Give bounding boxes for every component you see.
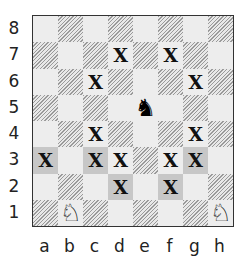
square-f4[interactable] — [158, 121, 183, 147]
square-d4[interactable] — [108, 121, 133, 147]
square-g2[interactable] — [183, 174, 208, 200]
square-f6[interactable] — [158, 69, 183, 95]
square-e8[interactable] — [133, 16, 158, 42]
rank-label-5: 5 — [0, 94, 28, 120]
x-mark-icon: X — [188, 123, 203, 145]
square-h5[interactable] — [208, 95, 233, 121]
square-b6[interactable] — [58, 69, 83, 95]
black-knight-icon[interactable]: ♞ — [135, 96, 157, 120]
square-a2[interactable] — [33, 174, 58, 200]
x-mark-icon: X — [113, 149, 128, 171]
square-c3[interactable]: X — [83, 147, 108, 173]
square-e5[interactable]: ♞ — [133, 95, 158, 121]
x-mark-icon: X — [88, 149, 103, 171]
rank-label-4: 4 — [0, 120, 28, 146]
square-b5[interactable] — [58, 95, 83, 121]
square-d3[interactable]: X — [108, 147, 133, 173]
square-h4[interactable] — [208, 121, 233, 147]
white-knight-icon[interactable]: ♘ — [60, 201, 82, 225]
square-d5[interactable] — [108, 95, 133, 121]
square-e2[interactable] — [133, 174, 158, 200]
square-h8[interactable] — [208, 16, 233, 42]
square-g8[interactable] — [183, 16, 208, 42]
square-h2[interactable] — [208, 174, 233, 200]
square-g1[interactable] — [183, 200, 208, 226]
white-knight-icon[interactable]: ♘ — [210, 201, 232, 225]
square-e6[interactable] — [133, 69, 158, 95]
square-c8[interactable] — [83, 16, 108, 42]
square-b8[interactable] — [58, 16, 83, 42]
rank-label-3: 3 — [0, 146, 28, 172]
square-b4[interactable] — [58, 121, 83, 147]
square-g7[interactable] — [183, 42, 208, 68]
square-c5[interactable] — [83, 95, 108, 121]
x-mark-icon: X — [188, 149, 203, 171]
square-g4[interactable]: X — [183, 121, 208, 147]
square-f7[interactable]: X — [158, 42, 183, 68]
x-mark-icon: X — [88, 71, 103, 93]
square-e3[interactable] — [133, 147, 158, 173]
square-a7[interactable] — [33, 42, 58, 68]
file-labels: abcdefgh — [32, 236, 233, 256]
square-h1[interactable]: ♘ — [208, 200, 233, 226]
square-g6[interactable]: X — [183, 69, 208, 95]
x-mark-icon: X — [188, 71, 203, 93]
file-label-a: a — [32, 236, 57, 256]
square-d6[interactable] — [108, 69, 133, 95]
square-d7[interactable]: X — [108, 42, 133, 68]
square-b2[interactable] — [58, 174, 83, 200]
square-a5[interactable] — [33, 95, 58, 121]
square-a8[interactable] — [33, 16, 58, 42]
square-f1[interactable] — [158, 200, 183, 226]
square-e1[interactable] — [133, 200, 158, 226]
square-f3[interactable]: X — [158, 147, 183, 173]
square-c6[interactable]: X — [83, 69, 108, 95]
rank-label-1: 1 — [0, 199, 28, 225]
square-h7[interactable] — [208, 42, 233, 68]
square-g3[interactable]: X — [183, 147, 208, 173]
file-label-f: f — [157, 236, 182, 256]
chess-board: XXXX♞XXXXXXXXX♘♘ — [32, 15, 234, 227]
square-c2[interactable] — [83, 174, 108, 200]
x-mark-icon: X — [38, 149, 53, 171]
square-h6[interactable] — [208, 69, 233, 95]
file-label-g: g — [182, 236, 207, 256]
rank-label-8: 8 — [0, 15, 28, 41]
square-a3[interactable]: X — [33, 147, 58, 173]
square-c1[interactable] — [83, 200, 108, 226]
square-e7[interactable] — [133, 42, 158, 68]
x-mark-icon: X — [88, 123, 103, 145]
square-d1[interactable] — [108, 200, 133, 226]
rank-label-7: 7 — [0, 41, 28, 67]
square-b3[interactable] — [58, 147, 83, 173]
square-b7[interactable] — [58, 42, 83, 68]
x-mark-icon: X — [113, 176, 128, 198]
x-mark-icon: X — [163, 176, 178, 198]
square-g5[interactable] — [183, 95, 208, 121]
square-f8[interactable] — [158, 16, 183, 42]
square-h3[interactable] — [208, 147, 233, 173]
rank-label-6: 6 — [0, 68, 28, 94]
square-f5[interactable] — [158, 95, 183, 121]
x-mark-icon: X — [163, 149, 178, 171]
square-c4[interactable]: X — [83, 121, 108, 147]
file-label-h: h — [207, 236, 232, 256]
file-label-c: c — [82, 236, 107, 256]
square-d2[interactable]: X — [108, 174, 133, 200]
square-a1[interactable] — [33, 200, 58, 226]
square-a6[interactable] — [33, 69, 58, 95]
square-c7[interactable] — [83, 42, 108, 68]
square-d8[interactable] — [108, 16, 133, 42]
square-f2[interactable]: X — [158, 174, 183, 200]
square-a4[interactable] — [33, 121, 58, 147]
rank-labels: 87654321 — [0, 15, 28, 225]
square-b1[interactable]: ♘ — [58, 200, 83, 226]
x-mark-icon: X — [163, 44, 178, 66]
x-mark-icon: X — [113, 44, 128, 66]
file-label-b: b — [57, 236, 82, 256]
square-e4[interactable] — [133, 121, 158, 147]
rank-label-2: 2 — [0, 173, 28, 199]
file-label-e: e — [132, 236, 157, 256]
file-label-d: d — [107, 236, 132, 256]
